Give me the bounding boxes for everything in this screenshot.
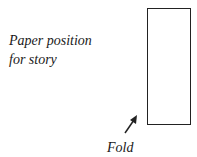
fold-arrow-icon (0, 0, 197, 157)
fold-label: Fold (107, 140, 133, 156)
